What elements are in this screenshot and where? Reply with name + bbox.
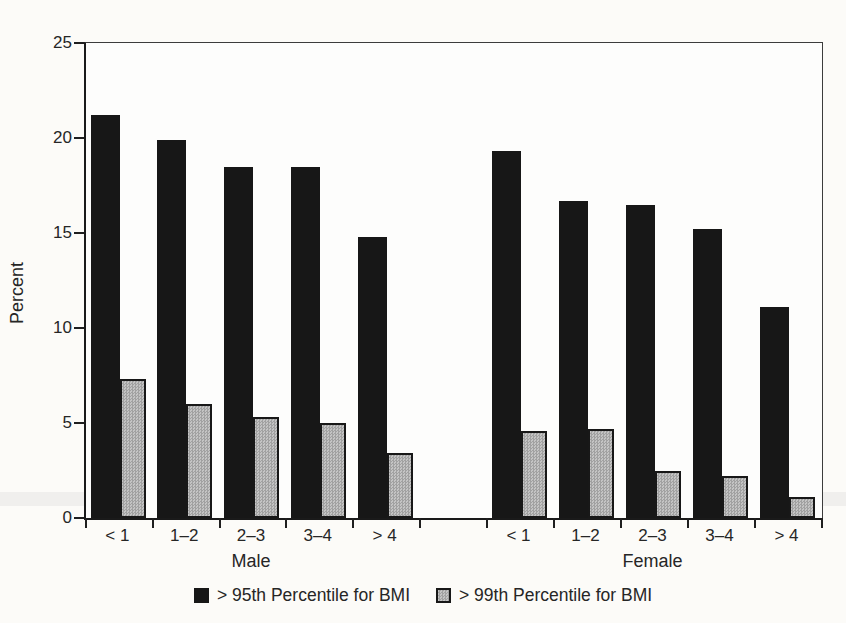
gray-stippled-square-icon — [436, 588, 451, 603]
legend-label: > 99th Percentile for BMI — [459, 585, 652, 606]
y-tick-label: 15 — [26, 224, 72, 242]
legend: > 95th Percentile for BMI> 99th Percenti… — [0, 583, 846, 607]
bar-female-99th-0 — [521, 431, 547, 518]
y-tick-mark — [74, 137, 84, 139]
bar-female-99th-4 — [789, 497, 815, 518]
y-tick-label: 25 — [26, 34, 72, 52]
y-tick-label: 0 — [26, 509, 72, 527]
bmi-percentile-bar-chart: Percent 0510152025 < 11–22–33–4> 4Male< … — [0, 0, 846, 623]
y-tick-mark — [74, 517, 84, 519]
bar-male-95th-4 — [358, 237, 387, 518]
y-tick-mark — [74, 42, 84, 44]
black-filled-square-icon — [194, 588, 209, 603]
group-label-male: Male — [191, 551, 311, 572]
legend-item-99th: > 99th Percentile for BMI — [436, 585, 652, 606]
bar-female-99th-2 — [655, 471, 681, 519]
bar-female-95th-0 — [492, 151, 521, 518]
bar-male-95th-2 — [224, 167, 253, 519]
y-axis-title: Percent — [0, 282, 62, 304]
bar-female-95th-3 — [693, 229, 722, 518]
plot-area: 0510152025 — [84, 42, 823, 520]
y-tick-label: 10 — [26, 319, 72, 337]
y-tick-mark — [74, 422, 84, 424]
bar-male-99th-0 — [120, 379, 146, 518]
bar-female-95th-2 — [626, 205, 655, 519]
bar-male-95th-0 — [91, 115, 120, 518]
bar-female-99th-1 — [588, 429, 614, 518]
bar-female-95th-1 — [559, 201, 588, 518]
bar-male-99th-3 — [320, 423, 346, 518]
y-tick-label: 5 — [26, 414, 72, 432]
x-category-label: > 4 — [345, 526, 425, 546]
bar-male-99th-4 — [387, 453, 413, 518]
legend-item-95th: > 95th Percentile for BMI — [194, 585, 410, 606]
y-tick-label: 20 — [26, 129, 72, 147]
bar-male-99th-1 — [186, 404, 212, 518]
x-category-label: > 4 — [747, 526, 827, 546]
y-tick-mark — [74, 232, 84, 234]
bar-male-99th-2 — [253, 417, 279, 518]
legend-label: > 95th Percentile for BMI — [217, 585, 410, 606]
bar-male-95th-1 — [157, 140, 186, 518]
group-label-female: Female — [593, 551, 713, 572]
bar-male-95th-3 — [291, 167, 320, 519]
y-tick-mark — [74, 327, 84, 329]
bar-female-95th-4 — [760, 307, 789, 518]
bar-female-99th-3 — [722, 476, 748, 518]
